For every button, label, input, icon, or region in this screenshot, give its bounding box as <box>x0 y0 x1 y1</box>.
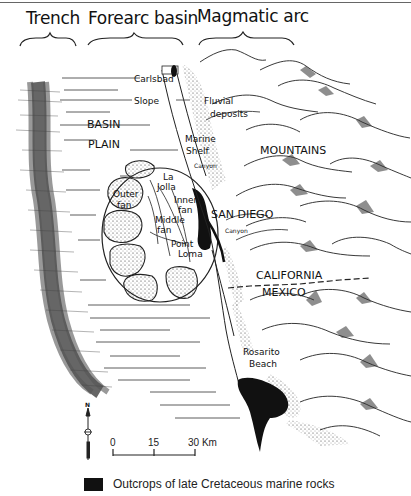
label-canyon-la-jolla: Canyon <box>194 163 217 169</box>
label-fluvial: Fluvial <box>204 97 233 106</box>
label-california: CALIFORNIA <box>256 270 322 281</box>
label-deposits: deposits <box>210 110 248 119</box>
label-loma: Loma <box>178 250 203 259</box>
legend-text: Outcrops of late Cretaceous marine rocks <box>113 477 334 491</box>
label-shelf: Shelf <box>186 147 209 156</box>
scale-tick-15: 15 <box>148 437 159 448</box>
north-label: N <box>85 402 90 408</box>
label-point: Point <box>171 240 193 249</box>
label-basin: BASIN <box>87 119 121 130</box>
legend-swatch-outcrops <box>84 478 103 491</box>
label-outer: Outer <box>113 190 139 199</box>
label-outer-fan: fan <box>117 201 131 210</box>
legend: Outcrops of late Cretaceous marine rocks <box>84 477 334 491</box>
zone-braces <box>20 32 294 46</box>
label-middle-fan: fan <box>157 226 171 235</box>
scale-tick-30: 30 Km <box>188 437 217 448</box>
scale-tick-0: 0 <box>110 437 116 448</box>
scale-bar <box>113 449 195 456</box>
label-plain: PLAIN <box>88 139 120 150</box>
north-arrow <box>84 408 92 460</box>
label-canyon-coronado: Canyon <box>225 228 248 234</box>
label-san-diego: SAN DIEGO <box>211 209 273 220</box>
label-jolla: Jolla <box>157 183 176 192</box>
label-slope: Slope <box>134 97 159 106</box>
label-beach: Beach <box>249 360 277 369</box>
label-rosarito: Rosarito <box>243 348 280 357</box>
label-mexico: MEXICO <box>262 287 306 298</box>
geologic-map <box>0 0 411 496</box>
label-middle: Middle <box>155 216 185 225</box>
label-la: La <box>163 173 174 182</box>
label-inner: Inner <box>174 196 197 205</box>
label-carlsbad: Carlsbad <box>134 75 174 84</box>
label-mountains: MOUNTAINS <box>260 145 326 156</box>
label-marine: Marine <box>185 135 216 144</box>
label-inner-fan: fan <box>178 206 192 215</box>
